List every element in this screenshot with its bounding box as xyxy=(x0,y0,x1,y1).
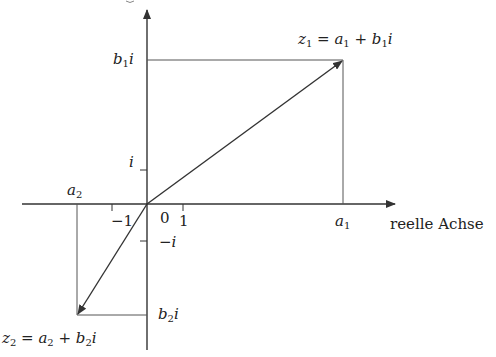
a2-label: a2 xyxy=(67,183,82,200)
b2i-label: b2i xyxy=(158,307,179,324)
tick-minus-one-label: −1 xyxy=(111,214,133,229)
z1-label: z1 = a1 + b1i xyxy=(298,32,393,49)
z2-label: z2 = a2 + b2i xyxy=(2,331,97,348)
tick-one-label: 1 xyxy=(179,214,189,229)
z1-vector-arrow xyxy=(147,61,342,204)
complex-plane-diagram: z1 = a1 + b1i z2 = a2 + b2i b1i b2i a1 a… xyxy=(0,0,496,357)
tick-i-label: i xyxy=(129,155,134,170)
a1-label: a1 xyxy=(335,214,350,231)
origin-label: 0 xyxy=(160,211,170,226)
b1i-label: b1i xyxy=(113,52,134,69)
tick-minus-i-label: −i xyxy=(159,235,176,250)
cropped-label-fragment xyxy=(126,1,134,3)
diagram-canvas xyxy=(0,0,496,357)
real-axis-label: reelle Achse xyxy=(390,217,484,232)
